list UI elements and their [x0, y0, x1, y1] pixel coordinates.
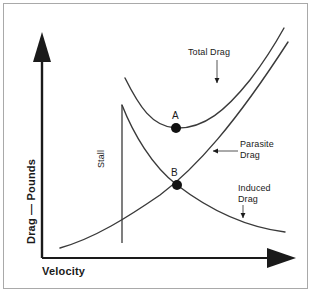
y-axis-label: Drag — Pounds [26, 159, 37, 244]
x-axis-label: Velocity [42, 266, 85, 277]
data-point-b [172, 180, 182, 190]
data-point-a-label: A [172, 110, 179, 121]
data-point-b-label: B [171, 167, 178, 178]
curve-total-drag [125, 28, 284, 128]
chart-figure: Total Drag Parasite Drag Induced Drag A … [0, 0, 314, 295]
annotation-induced-drag: Induced Drag [238, 183, 271, 205]
x-axis-arrowhead [267, 248, 296, 268]
stall-line-label: Stall [96, 150, 107, 168]
curve-induced-drag [122, 105, 285, 232]
data-point-a [171, 123, 181, 133]
annotation-total-drag: Total Drag [188, 47, 230, 58]
y-axis-arrowhead [33, 32, 51, 62]
annotation-parasite-drag: Parasite Drag [240, 139, 274, 161]
